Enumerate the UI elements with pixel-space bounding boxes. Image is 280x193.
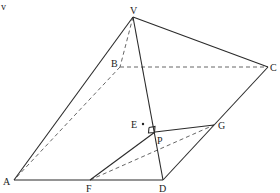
edge-BA [14, 67, 120, 180]
label-P: P [157, 135, 163, 146]
edge-VD [133, 17, 163, 180]
label-D: D [159, 183, 166, 193]
corner-mark: v [1, 1, 6, 12]
edge-VA [14, 17, 133, 180]
label-E: E [131, 119, 137, 130]
label-A: A [3, 176, 11, 187]
point-E-dot [142, 123, 144, 125]
label-C: C [270, 62, 277, 73]
label-V: V [130, 5, 138, 16]
label-G: G [218, 120, 225, 131]
edge-VB [120, 17, 133, 67]
segment-FP [90, 132, 155, 180]
label-F: F [86, 183, 92, 193]
label-B: B [111, 58, 118, 69]
pyramid-diagram: v V B C A F D E P G [0, 0, 280, 193]
edge-DC [163, 67, 268, 180]
edge-VC [133, 17, 268, 67]
